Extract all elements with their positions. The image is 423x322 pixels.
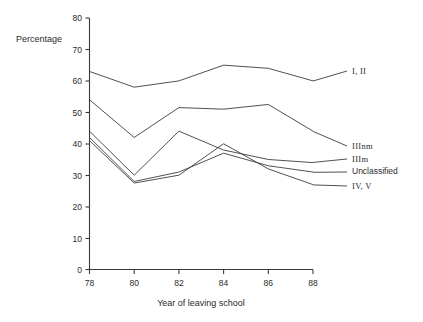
y-tick-label: 10: [73, 234, 83, 244]
legend-item-iiinm[interactable]: IIInm: [352, 141, 373, 151]
x-tick-label: 80: [129, 278, 139, 288]
y-tick-label: 80: [73, 13, 83, 23]
y-axis-ticks: [86, 18, 90, 270]
series-line-iiim: [90, 131, 314, 175]
x-axis-ticks: [90, 270, 314, 275]
line-chart-canvas: 80 70 60 50 40 30 20 10 0 78 80 82 84 86…: [0, 0, 423, 322]
y-tick-label: 60: [73, 76, 83, 86]
y-tick-label: 0: [77, 265, 82, 275]
series-line-i-ii: [90, 65, 314, 87]
chart-figure: 80 70 60 50 40 30 20 10 0 78 80 82 84 86…: [0, 0, 423, 322]
x-axis-title: Year of leaving school: [157, 298, 245, 308]
legend-item-unclassified[interactable]: Unclassified: [352, 166, 398, 176]
x-tick-label: 82: [174, 278, 184, 288]
y-tick-label: 30: [73, 171, 83, 181]
y-tick-label: 40: [73, 139, 83, 149]
y-tick-label: 20: [73, 202, 83, 212]
legend-item-i-ii[interactable]: I, II: [352, 66, 366, 76]
y-axis-tick-labels: 80 70 60 50 40 30 20 10 0: [73, 13, 83, 275]
y-axis-title: Percentage: [16, 34, 62, 44]
y-tick-label: 70: [73, 45, 83, 55]
legend: I, II IIInm IIIm Unclassified IV, V: [352, 66, 398, 191]
x-tick-label: 88: [308, 278, 318, 288]
x-axis-tick-labels: 78 80 82 84 86 88: [85, 278, 318, 288]
series-line-iiinm: [90, 100, 314, 138]
legend-item-iiim[interactable]: IIIm: [352, 154, 368, 164]
x-tick-label: 86: [264, 278, 274, 288]
y-tick-label: 50: [73, 108, 83, 118]
legend-leader-lines: [313, 71, 347, 186]
data-series-group: [90, 65, 314, 184]
x-tick-label: 78: [85, 278, 95, 288]
legend-item-iv-v[interactable]: IV, V: [352, 181, 372, 191]
x-tick-label: 84: [219, 278, 229, 288]
